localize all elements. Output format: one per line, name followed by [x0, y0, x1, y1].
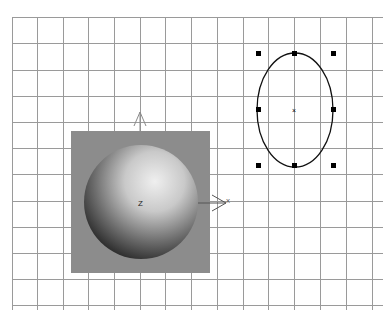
viewport-drawing: X Z × [0, 0, 391, 325]
viewport-canvas[interactable]: X Z × [0, 0, 391, 325]
handle-top-left[interactable] [256, 51, 261, 56]
x-axis-label: X [226, 198, 230, 204]
handle-top-right[interactable] [331, 51, 336, 56]
pivot-label: Z [138, 199, 143, 208]
handle-left[interactable] [256, 107, 261, 112]
handle-bottom-left[interactable] [256, 163, 261, 168]
handle-bottom-right[interactable] [331, 163, 336, 168]
handle-top[interactable] [292, 51, 297, 56]
y-axis-gizmo[interactable] [134, 112, 146, 131]
sphere-object[interactable]: X Z [71, 112, 230, 273]
handle-right[interactable] [331, 107, 336, 112]
handle-bottom[interactable] [292, 163, 297, 168]
center-marker-icon: × [292, 107, 296, 114]
